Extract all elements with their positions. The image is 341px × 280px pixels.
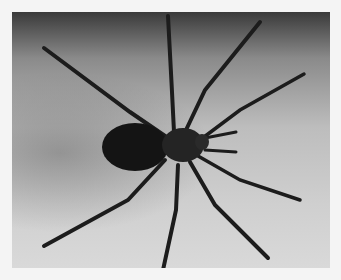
spider-photo — [12, 12, 330, 268]
spider-illustration — [12, 12, 330, 268]
